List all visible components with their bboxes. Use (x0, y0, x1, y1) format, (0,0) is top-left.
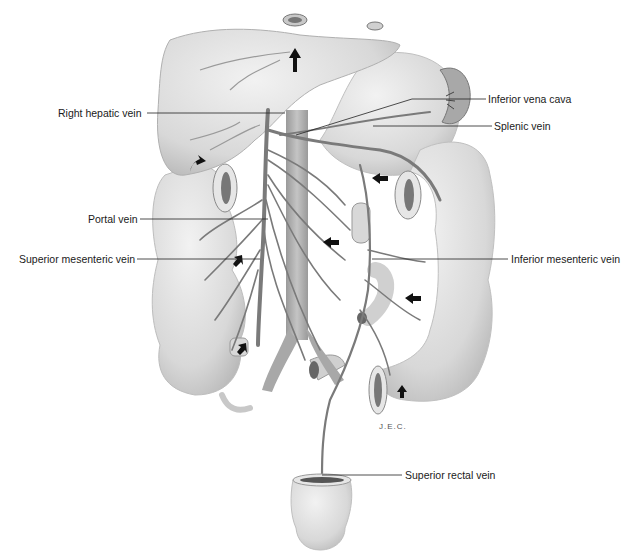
arrow-left-icon (405, 293, 421, 304)
label-portal-vein: Portal vein (88, 213, 138, 225)
rectum (291, 474, 352, 550)
label-inferior-mesenteric-vein: Inferior mesenteric vein (511, 253, 620, 265)
label-inferior-vena-cava: Inferior vena cava (488, 93, 571, 105)
label-right-hepatic-vein: Right hepatic vein (58, 107, 141, 119)
arrow-left-icon (323, 237, 339, 248)
label-superior-rectal-vein: Superior rectal vein (405, 469, 495, 481)
portal-system-diagram (0, 0, 638, 553)
label-splenic-vein: Splenic vein (494, 120, 551, 132)
label-superior-mesenteric-vein: Superior mesenteric vein (19, 253, 135, 265)
ascending-colon (152, 164, 250, 410)
artist-signature: J.E.C. (379, 422, 407, 431)
